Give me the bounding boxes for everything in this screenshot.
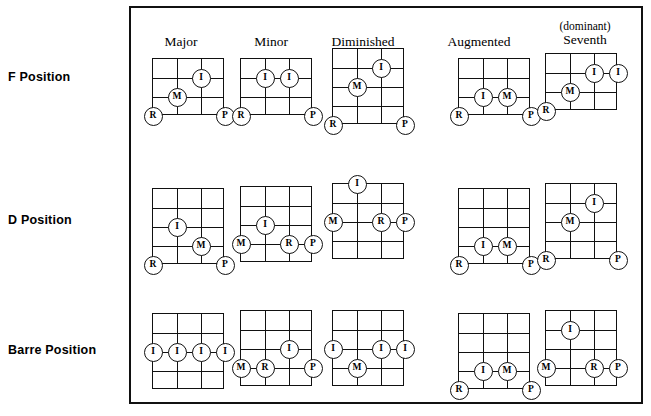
finger-marker-r: R — [372, 213, 391, 232]
chord-diagram: IMRP — [545, 183, 617, 259]
finger-marker-i: I — [372, 59, 391, 78]
fret-line — [333, 330, 403, 331]
chord-diagram: IIII — [152, 313, 224, 389]
fret-line — [459, 208, 529, 209]
fret-line — [546, 241, 616, 242]
finger-marker-i: I — [168, 218, 187, 237]
fretboard-grid — [332, 183, 404, 259]
fret-line — [333, 222, 403, 223]
fretboard-grid — [332, 310, 404, 386]
fretboard-grid — [152, 188, 224, 264]
chart-frame: Major Minor Diminished Augmented (domina… — [129, 6, 643, 404]
fret-line — [546, 73, 616, 74]
finger-marker-r: R — [537, 102, 556, 121]
finger-marker-i: I — [396, 340, 415, 359]
finger-marker-i: I — [585, 194, 604, 213]
finger-marker-p: P — [396, 213, 415, 232]
fret-line — [241, 206, 311, 207]
finger-marker-p: P — [609, 251, 628, 270]
chord-diagram: IMRP — [152, 58, 224, 115]
fretboard-grid — [458, 58, 530, 115]
fret-line — [153, 227, 223, 228]
finger-marker-p: P — [304, 235, 323, 254]
finger-marker-m: M — [192, 237, 211, 256]
fretboard-grid — [240, 186, 312, 262]
finger-marker-i: I — [144, 343, 163, 362]
finger-marker-m: M — [232, 235, 251, 254]
fret-line — [459, 246, 529, 247]
finger-marker-r: R — [324, 116, 343, 135]
fret-line — [153, 78, 223, 79]
chord-chart-page: F Position D Position Barre Position Maj… — [0, 0, 651, 416]
fretboard-grid — [152, 58, 224, 115]
chord-diagram: IMRP — [332, 48, 404, 124]
finger-marker-i: I — [192, 343, 211, 362]
fret-line — [459, 352, 529, 353]
fret-line — [546, 349, 616, 350]
finger-marker-m: M — [324, 213, 343, 232]
finger-marker-m: M — [168, 88, 187, 107]
fret-line — [153, 97, 223, 98]
row-label-d-position: D Position — [8, 213, 126, 227]
finger-marker-m: M — [498, 362, 517, 381]
fretboard-grid — [332, 48, 404, 124]
finger-marker-i: I — [216, 343, 235, 362]
fret-line — [333, 203, 403, 204]
fret-line — [459, 97, 529, 98]
fret-line — [241, 78, 311, 79]
finger-marker-i: I — [280, 340, 299, 359]
finger-marker-i: I — [280, 69, 299, 88]
finger-marker-m: M — [348, 359, 367, 378]
chord-diagram: IMRP — [240, 186, 312, 262]
fret-line — [153, 208, 223, 209]
finger-marker-i: I — [585, 64, 604, 83]
finger-marker-i: I — [168, 343, 187, 362]
fret-line — [333, 241, 403, 242]
chord-diagram: IMRP — [458, 188, 530, 264]
finger-marker-m: M — [348, 78, 367, 97]
finger-marker-m: M — [561, 213, 580, 232]
fret-line — [459, 78, 529, 79]
finger-marker-p: P — [609, 359, 628, 378]
fret-line — [333, 368, 403, 369]
finger-marker-r: R — [232, 107, 251, 126]
finger-marker-i: I — [561, 321, 580, 340]
finger-marker-r: R — [537, 251, 556, 270]
finger-marker-m: M — [498, 237, 517, 256]
finger-marker-m: M — [232, 359, 251, 378]
finger-marker-r: R — [585, 359, 604, 378]
finger-marker-r: R — [450, 256, 469, 275]
finger-marker-r: R — [256, 359, 275, 378]
chord-diagram: IMRP — [152, 188, 224, 264]
finger-marker-i: I — [474, 362, 493, 381]
finger-marker-i: I — [609, 64, 628, 83]
finger-marker-i: I — [256, 69, 275, 88]
fretboard-grid — [240, 310, 312, 386]
finger-marker-p: P — [522, 381, 541, 400]
fret-line — [459, 371, 529, 372]
fret-line — [546, 203, 616, 204]
row-label-barre-position: Barre Position — [8, 343, 126, 357]
fret-line — [546, 330, 616, 331]
fret-line — [153, 352, 223, 353]
finger-marker-i: I — [474, 237, 493, 256]
finger-marker-r: R — [144, 107, 163, 126]
fretboard-grid — [458, 188, 530, 264]
fret-line — [333, 68, 403, 69]
finger-marker-i: I — [256, 216, 275, 235]
fret-line — [546, 222, 616, 223]
fret-line — [333, 87, 403, 88]
chord-diagram: IIRP — [240, 58, 312, 115]
finger-marker-r: R — [450, 107, 469, 126]
finger-marker-r: R — [144, 256, 163, 275]
fretboard-grid — [545, 310, 617, 386]
fret-line — [153, 246, 223, 247]
fret-line — [241, 368, 311, 369]
finger-marker-m: M — [498, 88, 517, 107]
finger-marker-r: R — [280, 235, 299, 254]
finger-marker-r: R — [450, 381, 469, 400]
chord-diagram: IMRP — [545, 310, 617, 386]
finger-marker-p: P — [304, 359, 323, 378]
finger-marker-p: P — [396, 116, 415, 135]
fret-line — [333, 349, 403, 350]
